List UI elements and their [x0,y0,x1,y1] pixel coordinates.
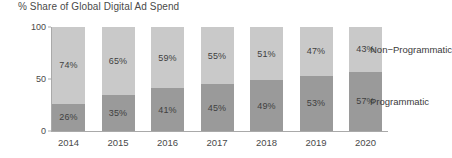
bar-2014[interactable]: 74%26% [52,27,85,131]
chart-title: % Share of Global Digital Ad Spend [18,1,179,12]
bar-segment-non-programmatic[interactable]: 65% [102,27,135,95]
bar-2019[interactable]: 47%53% [300,27,333,131]
bar-value-label: 55% [201,51,234,61]
bar-value-label: 51% [250,49,283,59]
bar-2016[interactable]: 59%41% [151,27,184,131]
x-axis-tick-label-2017: 2017 [201,137,234,148]
y-axis-tick-mark [48,131,51,132]
x-axis-tick-label-2020: 2020 [349,137,382,148]
bar-value-label: 65% [102,56,135,66]
x-axis-tick-label-2018: 2018 [250,137,283,148]
y-axis-tick-label: 0 [41,126,46,136]
bar-segment-programmatic[interactable]: 49% [250,80,283,131]
bar-value-label: 45% [201,103,234,113]
bar-segment-non-programmatic[interactable]: 59% [151,27,184,88]
legend-label-non-programmatic: Non−Programmatic [370,44,452,55]
y-axis-tick-mark [48,27,51,28]
bar-value-label: 47% [300,46,333,56]
bar-segment-programmatic[interactable]: 41% [151,88,184,131]
legend-label-programmatic: Programmatic [370,96,429,107]
y-axis-tick-label: 50 [36,74,46,84]
bar-2017[interactable]: 55%45% [201,27,234,131]
bar-value-label: 41% [151,105,184,115]
bar-value-label: 35% [102,108,135,118]
x-axis-tick-label-2014: 2014 [52,137,85,148]
bar-segment-non-programmatic[interactable]: 74% [52,27,85,104]
bar-value-label: 53% [300,98,333,108]
bar-value-label: 74% [52,60,85,70]
bar-segment-programmatic[interactable]: 26% [52,104,85,131]
bar-segment-non-programmatic[interactable]: 55% [201,27,234,84]
x-axis-line [51,131,388,132]
bar-2015[interactable]: 65%35% [102,27,135,131]
x-axis-tick-label-2016: 2016 [151,137,184,148]
bar-segment-non-programmatic[interactable]: 51% [250,27,283,80]
x-axis-tick-label-2015: 2015 [102,137,135,148]
bar-segment-programmatic[interactable]: 53% [300,76,333,131]
plot-area: 74%26%65%35%59%41%55%45%51%49%47%53%43%5… [52,27,382,131]
bar-segment-non-programmatic[interactable]: 47% [300,27,333,76]
bar-value-label: 49% [250,101,283,111]
x-axis-tick-label-2019: 2019 [300,137,333,148]
bar-segment-programmatic[interactable]: 35% [102,95,135,131]
bar-2020[interactable]: 43%57% [349,27,382,131]
y-axis-tick-label: 100 [31,22,46,32]
bar-value-label: 59% [151,53,184,63]
bar-2018[interactable]: 51%49% [250,27,283,131]
bar-segment-programmatic[interactable]: 45% [201,84,234,131]
y-axis-tick-mark [48,79,51,80]
bar-value-label: 26% [52,112,85,122]
